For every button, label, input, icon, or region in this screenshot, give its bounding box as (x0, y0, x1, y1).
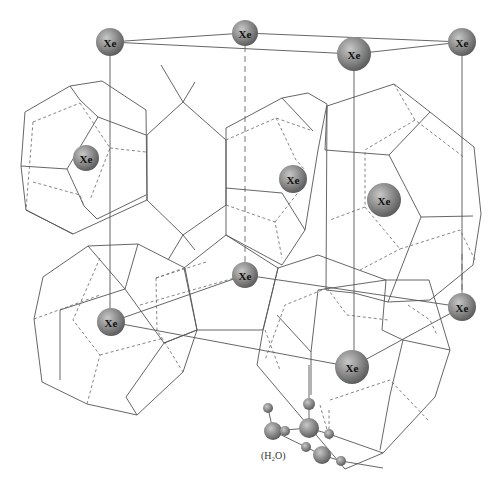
water-atom (301, 442, 311, 452)
xe-atom-center-cage: Xe (279, 165, 307, 193)
xe-atom-top-left: Xe (96, 28, 124, 56)
water-atom (324, 429, 334, 439)
water-atom (280, 426, 290, 436)
water-atom (303, 398, 315, 410)
xe-atom-right-cage: Xe (367, 183, 401, 217)
xe-atom-left-cage: Xe (73, 145, 99, 171)
water-atom (299, 418, 319, 438)
svg-text:Xe: Xe (346, 362, 359, 374)
svg-text:Xe: Xe (239, 28, 252, 40)
svg-text:Xe: Xe (456, 37, 469, 49)
xe-atom-lower-mid: Xe (232, 262, 258, 288)
xe-atom-top-mid: Xe (232, 20, 258, 46)
xe-atom-lower-left: Xe (97, 308, 125, 336)
xe-atom-lower-right: Xe (448, 293, 476, 321)
svg-text:Xe: Xe (348, 49, 361, 61)
svg-text:Xe: Xe (105, 317, 118, 329)
xe-atom-top-right: Xe (448, 28, 476, 56)
water-atom (313, 446, 331, 464)
cage-center (226, 93, 327, 265)
water-label: (H₂O) (261, 450, 286, 462)
water-atom (263, 403, 273, 413)
water-atom (264, 422, 282, 440)
water-molecule-cluster: (H₂O) (261, 365, 383, 468)
xe-atom-top-center-front: Xe (337, 37, 371, 71)
cage-right (325, 84, 481, 302)
xe-atom-bottom-center: Xe (335, 350, 369, 384)
svg-text:Xe: Xe (287, 174, 300, 186)
svg-text:Xe: Xe (239, 270, 252, 282)
svg-text:Xe: Xe (456, 302, 469, 314)
svg-text:Xe: Xe (104, 37, 117, 49)
xe-atoms: Xe Xe Xe Xe Xe Xe Xe Xe (73, 20, 476, 384)
clathrate-structure-diagram: Xe Xe Xe Xe Xe Xe Xe Xe (0, 0, 501, 488)
water-atom (336, 456, 346, 466)
svg-text:Xe: Xe (378, 195, 391, 207)
hexagon-bridge (147, 65, 226, 260)
svg-text:Xe: Xe (80, 153, 93, 165)
